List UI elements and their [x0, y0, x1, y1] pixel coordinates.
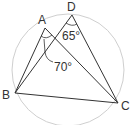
angle-label-d: 65°: [62, 29, 80, 43]
point-label-b: B: [2, 88, 10, 102]
geometry-diagram: A D B C 65° 70°: [0, 0, 138, 125]
angle-label-a: 70°: [54, 60, 72, 74]
segment-bc: [15, 93, 118, 103]
point-label-d: D: [67, 0, 76, 14]
point-label-c: C: [121, 99, 130, 113]
segment-ab: [15, 28, 45, 93]
angle-arc-d: [66, 23, 77, 25]
point-label-a: A: [38, 13, 46, 27]
angle-arc-a: [41, 35, 52, 38]
